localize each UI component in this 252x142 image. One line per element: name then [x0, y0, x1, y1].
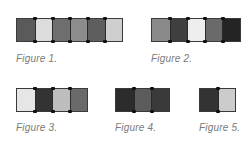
swatch-strip — [16, 88, 88, 112]
color-swatch — [35, 19, 53, 41]
color-swatch — [17, 89, 35, 111]
figure-caption: Figure 5. — [199, 122, 240, 133]
color-swatch — [87, 19, 105, 41]
color-swatch — [187, 19, 205, 41]
color-swatch — [35, 89, 53, 111]
color-swatch — [222, 19, 240, 41]
figure-caption: Figure 4. — [115, 122, 156, 133]
color-swatch — [218, 89, 236, 111]
color-swatch — [134, 89, 152, 111]
color-swatch — [205, 19, 223, 41]
color-swatch — [200, 89, 218, 111]
color-swatch — [170, 19, 188, 41]
swatch-strip — [199, 88, 236, 112]
swatch-strip — [16, 18, 123, 42]
color-swatch — [52, 19, 70, 41]
figure-caption: Figure 1. — [16, 53, 57, 64]
figure-caption: Figure 3. — [16, 122, 57, 133]
figure-caption: Figure 2. — [151, 53, 192, 64]
color-swatch — [152, 19, 170, 41]
color-swatch — [70, 19, 88, 41]
color-swatch — [105, 19, 123, 41]
color-swatch — [52, 89, 70, 111]
color-swatch — [17, 19, 35, 41]
swatch-strip — [115, 88, 170, 112]
swatch-strip — [151, 18, 241, 42]
color-swatch — [70, 89, 88, 111]
color-swatch — [116, 89, 134, 111]
color-swatch — [151, 89, 169, 111]
